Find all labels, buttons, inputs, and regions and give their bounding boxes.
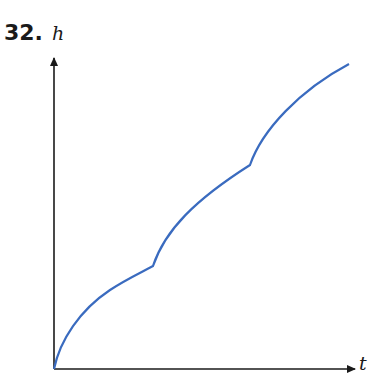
curve-h-of-t bbox=[54, 64, 349, 369]
chart-plot bbox=[0, 0, 383, 378]
